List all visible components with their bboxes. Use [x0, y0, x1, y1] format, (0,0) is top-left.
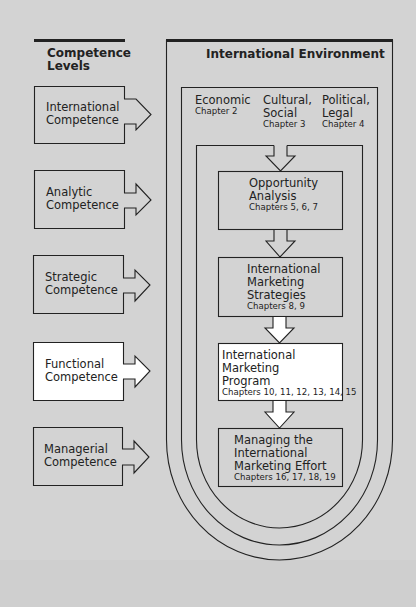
factor-name: Economic [195, 94, 251, 107]
factor-political-legal: Political, Legal Chapter 4 [322, 94, 370, 129]
stage-line: Marketing [222, 362, 357, 375]
competence-strategic: Strategic Competence [45, 271, 118, 297]
stage-line: Marketing [247, 276, 320, 289]
factor-name: Social [263, 107, 312, 120]
factor-chapter: Chapter 4 [322, 120, 370, 130]
environment-title: International Environment [206, 48, 385, 61]
factor-cultural-social: Cultural, Social Chapter 3 [263, 94, 312, 129]
competence-label: Analytic [46, 186, 119, 199]
competence-label: Competence [46, 114, 119, 127]
heading-line-2: Levels [47, 60, 131, 73]
stage-chapters: Chapters 16, 17, 18, 19 [234, 473, 336, 483]
competence-label: Competence [44, 456, 117, 469]
stage-managing-effort: Managing the International Marketing Eff… [234, 434, 336, 482]
stage-line: International [222, 349, 357, 362]
heading-line-1: Competence [47, 47, 131, 60]
diagram-lines [0, 0, 416, 607]
competence-analytic: Analytic Competence [46, 186, 119, 212]
competence-label: Managerial [44, 443, 117, 456]
factor-name: Political, [322, 94, 370, 107]
competence-label: International [46, 101, 119, 114]
stage-line: Managing the [234, 434, 336, 447]
stage-chapters: Chapters 8, 9 [247, 302, 320, 312]
stage-chapters: Chapters 10, 11, 12, 13, 14, 15 [222, 388, 357, 398]
stage-line: Opportunity [249, 177, 318, 190]
stage-line: Program [222, 375, 357, 388]
competence-label: Functional [45, 358, 118, 371]
factor-name: Cultural, [263, 94, 312, 107]
competence-functional: Functional Competence [45, 358, 118, 384]
stage-line: International [234, 447, 336, 460]
competence-label: Strategic [45, 271, 118, 284]
stage-line: Strategies [247, 289, 320, 302]
stage-chapters: Chapters 5, 6, 7 [249, 203, 318, 213]
stage-line: Analysis [249, 190, 318, 203]
factor-name: Legal [322, 107, 370, 120]
competence-label: Competence [45, 371, 118, 384]
competence-label: Competence [45, 284, 118, 297]
factor-economic: Economic Chapter 2 [195, 94, 251, 117]
competence-managerial: Managerial Competence [44, 443, 117, 469]
competence-label: Competence [46, 199, 119, 212]
stage-line: Marketing Effort [234, 460, 336, 473]
factor-chapter: Chapter 3 [263, 120, 312, 130]
competence-levels-heading: Competence Levels [47, 47, 131, 74]
factor-chapter: Chapter 2 [195, 107, 251, 117]
stage-marketing-program: International Marketing Program Chapters… [222, 349, 357, 397]
stage-marketing-strategies: International Marketing Strategies Chapt… [247, 263, 320, 311]
stage-opportunity-analysis: Opportunity Analysis Chapters 5, 6, 7 [249, 177, 318, 212]
competence-international: International Competence [46, 101, 119, 127]
stage-line: International [247, 263, 320, 276]
